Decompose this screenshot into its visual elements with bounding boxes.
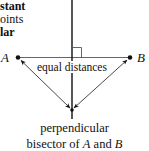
point-on-bisector xyxy=(70,108,74,112)
right-angle-marker xyxy=(72,48,82,58)
point-b xyxy=(128,55,133,60)
point-a-label: A xyxy=(1,50,9,66)
bottom-caption-line-2: bisector of A and B xyxy=(0,136,149,151)
bottom-caption-line-1: perpendicular xyxy=(0,120,149,136)
point-a xyxy=(16,55,21,60)
point-b-label: B xyxy=(137,50,145,66)
caption-prefix: bisector of xyxy=(27,137,83,151)
caption-mid: and xyxy=(90,137,114,151)
equal-distances-label: equal distances xyxy=(36,61,108,73)
caption-b: B xyxy=(115,137,123,151)
